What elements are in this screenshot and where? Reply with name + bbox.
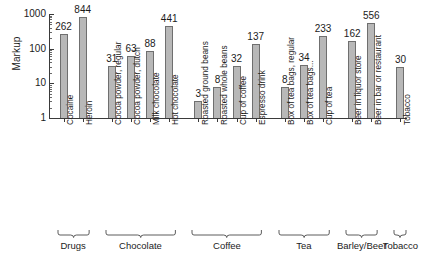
x-tick — [304, 119, 305, 122]
category-label: Cocoa powder, regular — [115, 42, 123, 125]
y-tick-minor — [50, 17, 52, 18]
x-tick — [131, 119, 132, 122]
category-label: Heroin — [86, 101, 94, 125]
y-tick-label: 1 — [16, 113, 46, 123]
y-tick-minor — [50, 54, 52, 55]
x-tick — [323, 119, 324, 122]
category-label: Beer in bar or restaurant — [375, 35, 383, 125]
category-label: Roasted ground beans — [202, 41, 210, 125]
bar-value-label: 233 — [308, 24, 338, 34]
x-tick — [285, 119, 286, 122]
y-tick-minor — [50, 73, 52, 74]
bar-value-label: 137 — [241, 32, 271, 42]
y-tick-minor — [50, 32, 52, 33]
group-brace — [345, 230, 378, 239]
group-brace — [393, 230, 407, 239]
y-tick-minor — [50, 89, 52, 90]
bar-value-label: 162 — [337, 29, 367, 39]
y-tick-minor — [50, 16, 52, 17]
y-tick-minor — [50, 91, 52, 92]
category-label: Hot chocolate — [172, 74, 180, 125]
group-label: Chocolate — [96, 241, 186, 251]
category-label: Cocoa powder, dutch — [134, 47, 142, 125]
bar-value-label: 30 — [385, 55, 415, 65]
bar-value-label: 262 — [49, 22, 79, 32]
y-tick-minor — [50, 97, 52, 98]
y-tick-major — [50, 118, 54, 119]
group-brace — [191, 230, 262, 239]
bar-value-label: 441 — [154, 14, 184, 24]
y-tick-minor — [50, 56, 52, 57]
category-label: Cup of coffee — [240, 76, 248, 125]
y-tick-minor — [50, 101, 52, 102]
y-tick-label: 1000 — [16, 9, 46, 19]
y-tick-minor — [50, 59, 52, 60]
group-brace — [57, 230, 90, 239]
y-tick-minor — [50, 62, 52, 63]
group-label: Tobacco — [355, 241, 423, 251]
x-tick — [198, 119, 199, 122]
category-label: Roasted whole beans — [221, 45, 229, 125]
category-label: Box of tea bags... — [307, 60, 315, 125]
group-brace — [278, 230, 330, 239]
category-label: Box of tea bags, regular — [288, 37, 296, 125]
group-brace — [105, 230, 176, 239]
y-axis-tick-labels: 1000100101 — [14, 0, 46, 271]
y-tick-minor — [50, 94, 52, 95]
category-label: Cup of tea — [326, 87, 334, 125]
y-tick-minor — [50, 52, 52, 53]
x-tick — [256, 119, 257, 122]
category-label: Espresso drink — [259, 70, 267, 125]
x-tick — [237, 119, 238, 122]
x-tick — [371, 119, 372, 122]
y-tick-label: 100 — [16, 44, 46, 54]
x-tick — [400, 119, 401, 122]
x-tick — [150, 119, 151, 122]
y-tick-label: 10 — [16, 78, 46, 88]
y-tick-minor — [50, 67, 52, 68]
category-label: Cocaine — [67, 95, 75, 125]
category-label: Milk chocolate — [153, 72, 161, 125]
y-tick-minor — [50, 19, 52, 20]
bar-value-label: 556 — [356, 11, 386, 21]
y-tick-minor — [50, 38, 52, 39]
bar-value-label: 844 — [68, 5, 98, 15]
category-label: Tobacco — [404, 94, 412, 125]
x-tick — [112, 119, 113, 122]
x-tick — [83, 119, 84, 122]
y-tick-minor — [50, 108, 52, 109]
y-tick-minor — [50, 50, 52, 51]
y-tick-minor — [50, 87, 52, 88]
x-tick — [64, 119, 65, 122]
y-tick-minor — [50, 85, 52, 86]
category-label: Beer in liquor store — [355, 55, 363, 125]
x-tick — [217, 119, 218, 122]
